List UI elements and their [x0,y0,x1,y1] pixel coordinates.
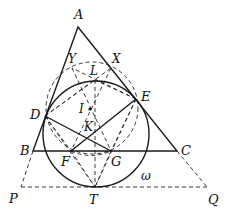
label-T: T [89,193,98,206]
label-E: E [141,90,151,103]
label-K: K [84,121,93,133]
point-I-dot [88,107,91,110]
label-G: G [111,155,121,168]
label-Y: Y [68,53,76,65]
label-omega: ω [141,170,151,182]
label-P: P [9,192,18,205]
label-Q: Q [208,193,219,206]
label-A: A [74,8,83,21]
label-L: L [90,65,98,77]
label-D: D [30,108,40,121]
line-DF [45,116,71,151]
geometry-diagram: A Y X L E I D K B C F G ω P T Q [0,0,229,218]
label-C: C [181,144,191,157]
label-X: X [112,53,121,65]
label-I: I [79,103,84,115]
label-B: B [20,144,30,157]
label-F: F [61,155,70,168]
triangle-ABC [33,27,177,151]
